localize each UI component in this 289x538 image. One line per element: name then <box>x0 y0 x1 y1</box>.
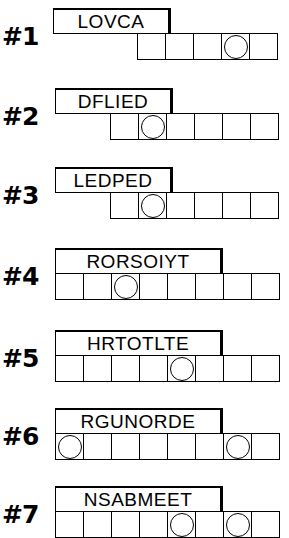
scrambled-word-box: HRTOTLTE <box>55 330 223 356</box>
answer-cell[interactable] <box>224 274 252 300</box>
answer-cell[interactable] <box>112 274 140 300</box>
circle-marker-icon <box>226 435 250 459</box>
answer-cell[interactable] <box>195 193 223 219</box>
answer-cell[interactable] <box>196 356 224 382</box>
answer-cell[interactable] <box>84 356 112 382</box>
scrambled-word-text: LOVCA <box>78 12 145 32</box>
answer-cell[interactable] <box>252 512 280 538</box>
answer-cell[interactable] <box>168 274 196 300</box>
answer-cell[interactable] <box>223 193 251 219</box>
scrambled-word-text: NSABMEET <box>84 490 193 510</box>
row-number-label: #7 <box>2 502 38 527</box>
answer-cell[interactable] <box>84 274 112 300</box>
scrambled-word-text: RGUNORDE <box>81 412 196 432</box>
scrambled-word-box: DFLIED <box>55 88 173 114</box>
answer-cell[interactable] <box>252 274 280 300</box>
answer-cell[interactable] <box>194 34 222 60</box>
row-number-label: #1 <box>2 24 38 49</box>
answer-cell[interactable] <box>140 512 168 538</box>
answer-cell[interactable] <box>112 356 140 382</box>
answer-cell[interactable] <box>168 512 196 538</box>
answer-cell[interactable] <box>56 512 84 538</box>
row-number-label: #2 <box>2 104 38 129</box>
circle-marker-icon <box>170 513 194 537</box>
row-number-label: #4 <box>2 264 38 289</box>
answer-cell[interactable] <box>223 114 251 140</box>
answer-cell[interactable] <box>111 114 139 140</box>
circle-marker-icon <box>226 513 250 537</box>
answer-cell[interactable] <box>251 193 279 219</box>
answer-grid <box>55 433 280 460</box>
answer-cell[interactable] <box>252 356 280 382</box>
scrambled-word-box: RGUNORDE <box>55 408 223 434</box>
circle-marker-icon <box>170 357 194 381</box>
answer-cell[interactable] <box>167 193 195 219</box>
answer-cell[interactable] <box>112 434 140 460</box>
circle-marker-icon <box>58 435 82 459</box>
circle-marker-icon <box>141 194 165 218</box>
answer-cell[interactable] <box>84 434 112 460</box>
answer-cell[interactable] <box>139 114 167 140</box>
answer-cell[interactable] <box>140 434 168 460</box>
answer-cell[interactable] <box>196 434 224 460</box>
answer-grid <box>55 511 280 538</box>
answer-cell[interactable] <box>56 356 84 382</box>
answer-grid <box>110 113 279 140</box>
answer-cell[interactable] <box>112 512 140 538</box>
row-number-label: #3 <box>2 183 38 208</box>
answer-cell[interactable] <box>224 434 252 460</box>
answer-cell[interactable] <box>140 274 168 300</box>
answer-cell[interactable] <box>167 114 195 140</box>
answer-cell[interactable] <box>138 34 166 60</box>
answer-cell[interactable] <box>84 512 112 538</box>
row-number-label: #5 <box>2 346 38 371</box>
scrambled-word-text: HRTOTLTE <box>87 334 189 354</box>
answer-cell[interactable] <box>196 274 224 300</box>
scrambled-word-box: RORSOIYT <box>55 248 223 274</box>
answer-cell[interactable] <box>166 34 194 60</box>
answer-cell[interactable] <box>251 114 279 140</box>
answer-cell[interactable] <box>111 193 139 219</box>
answer-cell[interactable] <box>224 512 252 538</box>
scrambled-word-box: NSABMEET <box>55 486 223 512</box>
circle-marker-icon <box>141 115 165 139</box>
answer-cell[interactable] <box>56 274 84 300</box>
answer-grid <box>55 273 280 300</box>
answer-grid <box>137 33 278 60</box>
answer-cell[interactable] <box>56 434 84 460</box>
answer-grid <box>55 355 280 382</box>
answer-cell[interactable] <box>139 193 167 219</box>
answer-cell[interactable] <box>252 434 280 460</box>
answer-cell[interactable] <box>196 512 224 538</box>
scrambled-word-text: RORSOIYT <box>86 252 189 272</box>
answer-cell[interactable] <box>195 114 223 140</box>
scrambled-word-box: LEDPED <box>55 167 173 193</box>
row-number-label: #6 <box>2 424 38 449</box>
answer-grid <box>110 192 279 219</box>
answer-cell[interactable] <box>250 34 278 60</box>
answer-cell[interactable] <box>224 356 252 382</box>
scrambled-word-text: LEDPED <box>73 171 152 191</box>
circle-marker-icon <box>114 275 138 299</box>
circle-marker-icon <box>224 35 248 59</box>
scrambled-word-box: LOVCA <box>53 8 171 34</box>
answer-cell[interactable] <box>168 356 196 382</box>
answer-cell[interactable] <box>222 34 250 60</box>
scrambled-word-text: DFLIED <box>78 92 149 112</box>
answer-cell[interactable] <box>140 356 168 382</box>
answer-cell[interactable] <box>168 434 196 460</box>
